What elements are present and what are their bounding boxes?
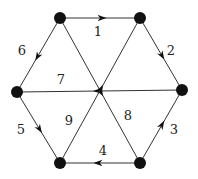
edge-label: 1 [94, 24, 102, 39]
edge-label: 5 [17, 122, 25, 137]
edges-group [17, 18, 182, 163]
edge-label: 6 [18, 43, 26, 58]
directed-graph-diagram: 123456789 [0, 0, 198, 179]
graph-node [176, 84, 188, 96]
edge-label: 9 [65, 113, 73, 128]
graph-node [54, 157, 66, 169]
edge-2 [140, 18, 182, 90]
edge-label: 7 [57, 72, 65, 87]
graph-node [134, 157, 146, 169]
edge-label: 4 [99, 143, 107, 158]
edge-label: 2 [167, 43, 175, 58]
edge-label: 3 [170, 122, 178, 137]
edge-label: 8 [124, 108, 132, 123]
graph-node [134, 12, 146, 24]
graph-node [11, 86, 23, 98]
graph-node [54, 12, 66, 24]
